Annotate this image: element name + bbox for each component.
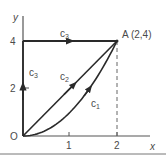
point-a <box>116 40 119 43</box>
x-tick-label-2: 2 <box>114 140 120 151</box>
c1-label: c1 <box>91 98 100 110</box>
x-axis-label: x <box>149 141 156 152</box>
path-c1-arrow <box>84 88 90 96</box>
c3-label-side: c3 <box>29 67 38 79</box>
y-tick-label-4: 4 <box>10 36 16 47</box>
y-tick-label-2: 2 <box>10 83 16 94</box>
point-a-label: A (2,4) <box>122 29 151 40</box>
c2-label: c2 <box>60 71 69 83</box>
x-tick-label-1: 1 <box>66 140 72 151</box>
path-c2-arrow <box>64 85 74 95</box>
origin-label: O <box>10 131 18 142</box>
c3-label-top: c3 <box>60 28 69 40</box>
y-axis-label: y <box>12 12 19 23</box>
line-integral-diagram: y x O 1 2 2 4 A (2,4) c3 c3 c2 c1 <box>0 0 166 158</box>
